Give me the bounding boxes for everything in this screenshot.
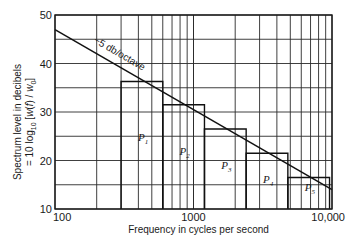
spectrum-chart: P1P2P3P4P5 −5 db/octave 1020304050 10010… xyxy=(0,0,357,242)
band-bar xyxy=(121,81,163,209)
y-tick-label: 40 xyxy=(40,58,52,70)
band-label: P5 xyxy=(304,181,316,196)
y-tick-label: 30 xyxy=(40,106,52,118)
x-axis-ticks: 100100010,000 xyxy=(53,211,345,223)
y-axis-label-line1: Spectrum level in decibels xyxy=(12,64,23,180)
x-tick-label: 1000 xyxy=(181,211,205,223)
band-label: P4 xyxy=(262,173,274,188)
x-tick-label: 10,000 xyxy=(311,211,345,223)
band-bar xyxy=(163,105,205,209)
y-tick-label: 50 xyxy=(40,9,52,21)
y-axis-label: Spectrum level in decibels = 10 log10 [w… xyxy=(12,64,37,180)
x-tick-label: 100 xyxy=(53,211,71,223)
y-tick-label: 10 xyxy=(40,203,52,215)
octave-bands: P1P2P3P4P5 xyxy=(121,81,329,209)
y-tick-label: 20 xyxy=(40,155,52,167)
y-axis-ticks: 1020304050 xyxy=(40,9,52,215)
x-axis-label: Frequency in cycles per second xyxy=(128,224,269,235)
y-axis-label-line2: = 10 log10 [w(f) / w0] xyxy=(24,78,37,166)
